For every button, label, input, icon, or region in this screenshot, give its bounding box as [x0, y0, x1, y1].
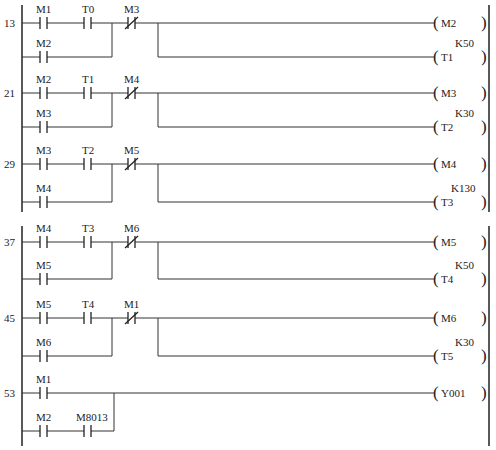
- contact-label: M2: [36, 37, 51, 49]
- timer-preset: K50: [455, 37, 474, 49]
- coil-close-icon: ): [481, 383, 487, 402]
- no-contact-icon: [40, 51, 47, 63]
- contact-label: M5: [36, 259, 52, 271]
- no-contact-icon: [40, 350, 47, 362]
- coil-label: M3: [441, 87, 457, 99]
- rung-21: 21 M2 T1 M4 M3 ( M3 ) ( T2 ) K30: [4, 73, 487, 136]
- no-contact-icon: [40, 273, 47, 285]
- coil-open-icon: (: [433, 308, 439, 327]
- contact-label: T3: [82, 222, 95, 234]
- contact-label: M1: [36, 3, 51, 15]
- no-contact-icon: [84, 425, 91, 437]
- coil-open-icon: (: [433, 346, 439, 365]
- contact-label: M2: [36, 411, 51, 423]
- ladder-diagram: 13 M1 T0 M3 M2 ( M2 ) ( T1 ) K50 21: [0, 0, 496, 450]
- coil-label: T1: [441, 51, 453, 63]
- contact-label: M3: [36, 107, 52, 119]
- contact-label: M5: [124, 144, 140, 156]
- coil-label: T5: [441, 350, 454, 362]
- rung-13: 13 M1 T0 M3 M2 ( M2 ) ( T1 ) K50: [4, 3, 487, 66]
- rung-29: 29 M3 T2 M5 M4 ( M4 ) ( T3 ) K130: [4, 144, 487, 211]
- coil-open-icon: (: [433, 269, 439, 288]
- contact-label: T1: [82, 73, 94, 85]
- step-number: 53: [4, 387, 16, 399]
- coil-open-icon: (: [433, 83, 439, 102]
- coil-close-icon: ): [481, 269, 487, 288]
- coil-close-icon: ): [481, 83, 487, 102]
- no-contact-icon: [84, 87, 91, 99]
- coil-open-icon: (: [433, 383, 439, 402]
- coil-label: T4: [441, 273, 454, 285]
- no-contact-icon: [40, 121, 47, 133]
- contact-label: T4: [82, 298, 95, 310]
- rung-45: 45 M5 T4 M1 M6 ( M6 ) ( T5 ) K30: [4, 298, 487, 365]
- contact-label: M4: [36, 182, 52, 194]
- contact-label: M5: [36, 298, 52, 310]
- coil-open-icon: (: [433, 13, 439, 32]
- timer-preset: K50: [455, 259, 474, 271]
- contact-label: M6: [36, 336, 52, 348]
- contact-label: M1: [124, 298, 139, 310]
- no-contact-icon: [84, 158, 91, 170]
- coil-open-icon: (: [433, 47, 439, 66]
- contact-label: M8013: [76, 411, 108, 423]
- coil-close-icon: ): [481, 117, 487, 136]
- coil-close-icon: ): [481, 192, 487, 211]
- coil-open-icon: (: [433, 154, 439, 173]
- no-contact-icon: [40, 158, 47, 170]
- no-contact-icon: [40, 425, 47, 437]
- timer-preset: K30: [455, 107, 474, 119]
- coil-label: M2: [441, 17, 456, 29]
- coil-close-icon: ): [481, 47, 487, 66]
- coil-label: Y001: [441, 387, 465, 399]
- no-contact-icon: [40, 236, 47, 248]
- timer-preset: K130: [451, 182, 476, 194]
- contact-label: M4: [124, 73, 140, 85]
- coil-close-icon: ): [481, 308, 487, 327]
- no-contact-icon: [40, 196, 47, 208]
- coil-label: T3: [441, 196, 454, 208]
- contact-label: T2: [82, 144, 94, 156]
- no-contact-icon: [40, 312, 47, 324]
- rung-37: 37 M4 T3 M6 M5 ( M5 ) ( T4 ) K50: [4, 222, 487, 288]
- timer-preset: K30: [455, 336, 474, 348]
- contact-label: M6: [124, 222, 140, 234]
- coil-label: M4: [441, 158, 457, 170]
- coil-close-icon: ): [481, 232, 487, 251]
- step-number: 21: [4, 87, 15, 99]
- contact-label: M2: [36, 73, 51, 85]
- coil-label: T2: [441, 121, 453, 133]
- coil-open-icon: (: [433, 192, 439, 211]
- coil-open-icon: (: [433, 232, 439, 251]
- no-contact-icon: [84, 17, 91, 29]
- no-contact-icon: [84, 236, 91, 248]
- contact-label: M3: [36, 144, 52, 156]
- no-contact-icon: [40, 387, 47, 399]
- no-contact-icon: [40, 17, 47, 29]
- no-contact-icon: [84, 312, 91, 324]
- coil-label: M5: [441, 236, 457, 248]
- coil-close-icon: ): [481, 346, 487, 365]
- coil-close-icon: ): [481, 154, 487, 173]
- step-number: 29: [4, 158, 16, 170]
- coil-label: M6: [441, 312, 457, 324]
- contact-label: T0: [82, 3, 95, 15]
- coil-open-icon: (: [433, 117, 439, 136]
- contact-label: M4: [36, 222, 52, 234]
- no-contact-icon: [40, 87, 47, 99]
- step-number: 37: [4, 236, 16, 248]
- rung-53: 53 M1 M2 M8013 ( Y001 ): [4, 373, 487, 437]
- contact-label: M3: [124, 3, 140, 15]
- contact-label: M1: [36, 373, 51, 385]
- coil-close-icon: ): [481, 13, 487, 32]
- step-number: 13: [4, 17, 16, 29]
- step-number: 45: [4, 312, 16, 324]
